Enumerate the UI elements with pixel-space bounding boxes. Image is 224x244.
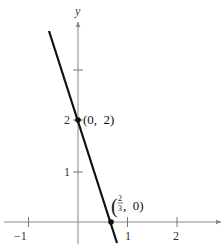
label-y-intercept: (0, 2) bbox=[83, 112, 114, 127]
x-tick-label-neg1: −1 bbox=[14, 229, 27, 243]
y-tick-label-1: 1 bbox=[64, 165, 70, 179]
label-x-intercept-rest: , 0) bbox=[123, 198, 144, 213]
x-tick-label-1: 1 bbox=[125, 229, 131, 243]
point-y-intercept bbox=[75, 117, 81, 123]
x-tick-label-2: 2 bbox=[173, 229, 179, 243]
y-tick-label-2: 2 bbox=[64, 113, 70, 127]
label-x-intercept-den: 3 bbox=[118, 204, 122, 213]
graph-plot: y −1 1 2 1 2 (0, 2) ( 2 3 , 0) bbox=[0, 0, 224, 244]
point-x-intercept bbox=[108, 219, 114, 225]
label-x-intercept-num: 2 bbox=[118, 194, 122, 203]
label-x-intercept-open: ( bbox=[111, 195, 118, 218]
y-axis-label: y bbox=[74, 4, 81, 18]
line-series bbox=[49, 31, 117, 243]
label-x-intercept: ( 2 3 , 0) bbox=[111, 194, 144, 218]
